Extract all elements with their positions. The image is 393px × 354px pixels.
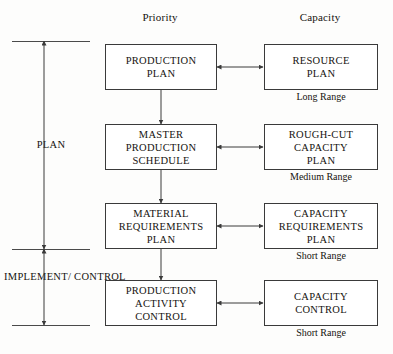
- node-line: PLAN: [147, 67, 176, 80]
- bracket-label-implement-control: IMPLEMENT/ CONTROL: [4, 270, 98, 283]
- node-line: PLAN: [147, 233, 176, 246]
- node-line: PLAN: [307, 233, 336, 246]
- node-line: CAPACITY: [294, 207, 348, 220]
- range-caption-short-2: Short Range: [264, 327, 378, 338]
- mpc-hierarchy-diagram: Priority Capacity PLAN IMPLEMENT/ CONTRO…: [0, 0, 393, 354]
- node-line: RESOURCE: [292, 54, 349, 67]
- node-material-requirements-plan[interactable]: MATERIAL REQUIREMENTS PLAN: [105, 203, 217, 249]
- node-master-production-schedule[interactable]: MASTER PRODUCTION SCHEDULE: [105, 124, 217, 170]
- range-caption-medium: Medium Range: [264, 171, 378, 182]
- node-line: PRODUCTION: [126, 141, 197, 154]
- node-line: CAPACITY: [294, 141, 348, 154]
- node-line: PRODUCTION: [126, 284, 197, 297]
- node-line: CONTROL: [135, 310, 187, 323]
- bracket-label-plan: PLAN: [4, 138, 98, 151]
- node-rough-cut-capacity-plan[interactable]: ROUGH-CUT CAPACITY PLAN: [264, 124, 378, 170]
- node-resource-plan[interactable]: RESOURCE PLAN: [264, 44, 378, 90]
- node-line: MATERIAL: [133, 207, 188, 220]
- node-line: REQUIREMENTS: [119, 220, 204, 233]
- node-line: ROUGH-CUT: [289, 128, 354, 141]
- column-header-capacity: Capacity: [280, 11, 360, 23]
- bracket-rule-top: [12, 41, 90, 42]
- node-line: ACTIVITY: [135, 297, 187, 310]
- node-line: CONTROL: [295, 303, 347, 316]
- range-caption-long: Long Range: [264, 91, 378, 102]
- bracket-rule-bottom: [12, 325, 90, 326]
- node-line: CAPACITY: [294, 290, 348, 303]
- bracket-label-implement-line1: IMPLEMENT/: [4, 271, 71, 282]
- node-line: PRODUCTION: [126, 54, 197, 67]
- node-line: PLAN: [307, 154, 336, 167]
- node-production-activity-control[interactable]: PRODUCTION ACTIVITY CONTROL: [105, 280, 217, 326]
- node-capacity-requirements-plan[interactable]: CAPACITY REQUIREMENTS PLAN: [264, 203, 378, 249]
- node-line: PLAN: [307, 67, 336, 80]
- range-caption-short-1: Short Range: [264, 250, 378, 261]
- column-header-priority: Priority: [120, 11, 200, 23]
- node-line: SCHEDULE: [132, 154, 189, 167]
- node-line: MASTER: [139, 128, 183, 141]
- bracket-rule-middle: [12, 249, 90, 250]
- node-capacity-control[interactable]: CAPACITY CONTROL: [264, 280, 378, 326]
- node-production-plan[interactable]: PRODUCTION PLAN: [105, 44, 217, 90]
- node-line: REQUIREMENTS: [279, 220, 364, 233]
